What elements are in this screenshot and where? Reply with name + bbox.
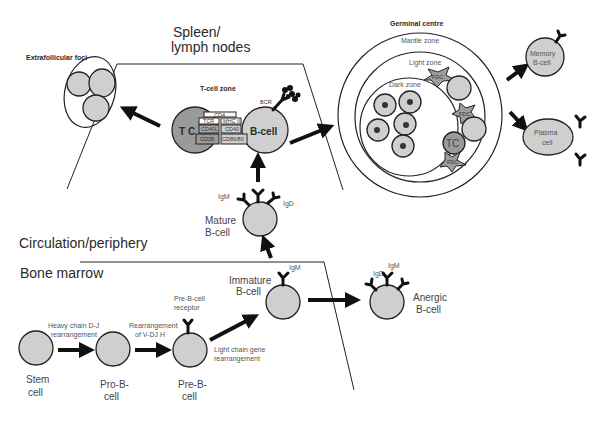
pro-b-cell: Pro-B- cell xyxy=(96,332,130,402)
arrow-to-memory xyxy=(507,68,523,80)
svg-text:CD28: CD28 xyxy=(200,136,214,142)
region-label-spleen: Spleen/ xyxy=(173,24,221,40)
svg-text:FDC: FDC xyxy=(459,111,470,117)
antibody-icon xyxy=(383,273,392,285)
antibody-icon xyxy=(238,194,249,205)
svg-text:cell: cell xyxy=(542,139,553,146)
svg-text:B-cell: B-cell xyxy=(416,304,441,315)
svg-text:Immature: Immature xyxy=(229,275,272,286)
arrow-immature-to-mature xyxy=(265,242,271,258)
svg-text:B-cell: B-cell xyxy=(533,59,551,66)
germinal-centre: Mantle zone Light zone Dark zone FDC FDC… xyxy=(338,33,502,197)
svg-text:CD40L: CD40L xyxy=(201,126,218,132)
region-label-bone-marrow: Bone marrow xyxy=(20,265,104,281)
svg-text:Mature: Mature xyxy=(205,215,237,226)
bone-marrow-boundary xyxy=(80,262,354,390)
antibody-icon xyxy=(184,320,192,333)
b-cell-development-diagram: Spleen/ lymph nodes Circulation/peripher… xyxy=(0,0,605,421)
svg-text:IgM: IgM xyxy=(388,262,400,270)
step-vdj: Rearrangement xyxy=(129,322,178,330)
svg-text:TC: TC xyxy=(446,138,459,149)
antibody-icon xyxy=(576,154,585,165)
step-light-chain-2: rearrangement xyxy=(214,355,260,363)
step-heavy-chain-2: rearrangement xyxy=(51,331,97,339)
svg-text:Light zone: Light zone xyxy=(409,59,441,67)
svg-text:T C: T C xyxy=(179,126,195,137)
step-vdj-2: of V-DJ H xyxy=(135,331,165,338)
antibody-icon xyxy=(279,273,288,285)
svg-text:receptor: receptor xyxy=(174,304,200,312)
antibody-icon xyxy=(556,31,565,42)
region-label-circulation: Circulation/periphery xyxy=(19,235,147,251)
svg-text:cell: cell xyxy=(182,391,197,402)
svg-text:FDC: FDC xyxy=(447,159,458,165)
svg-text:Memory: Memory xyxy=(530,50,556,58)
mature-b-cell: Mature B-cell IgM IgD xyxy=(205,190,294,238)
step-heavy-chain: Heavy chain D-J xyxy=(48,322,99,330)
pre-b-cell: Pre-B- cell Pre-B-cell receptor xyxy=(173,295,207,402)
extrafollicular-title: Extrafollicular foci xyxy=(26,54,87,61)
plasma-cell: Plasma cell xyxy=(523,116,585,165)
arrow-to-extrafollicular xyxy=(127,110,160,126)
arrow-preb-to-immature xyxy=(210,318,252,340)
svg-text:Mantle zone: Mantle zone xyxy=(401,37,439,44)
immature-b-cell: Immature B-cell IgM xyxy=(229,264,301,319)
svg-text:FDC: FDC xyxy=(432,74,443,80)
svg-text:IgD: IgD xyxy=(283,200,294,208)
svg-text:Pro-B-: Pro-B- xyxy=(100,379,129,390)
tcell-zone-title: T-cell zone xyxy=(200,85,236,92)
svg-text:Stem: Stem xyxy=(26,374,49,385)
svg-text:cell: cell xyxy=(28,387,43,398)
memory-b-cell: Memory B-cell xyxy=(526,31,565,76)
svg-text:cell: cell xyxy=(104,391,119,402)
svg-text:Pre-B-cell: Pre-B-cell xyxy=(174,295,205,302)
antibody-icon xyxy=(366,279,376,290)
arrow-to-germinal-centre xyxy=(290,128,327,143)
germinal-centre-title: Germinal centre xyxy=(390,20,443,27)
svg-text:Anergic: Anergic xyxy=(413,292,447,303)
antibody-icon xyxy=(253,190,263,202)
extrafollicular-foci xyxy=(57,51,124,133)
svg-text:Pre-B-: Pre-B- xyxy=(178,379,207,390)
svg-text:CD4: CD4 xyxy=(214,112,225,118)
antibody-icon xyxy=(268,193,279,203)
region-label-lymph-nodes: lymph nodes xyxy=(171,39,250,55)
svg-text:Plasma: Plasma xyxy=(534,129,557,136)
svg-text:B-cell: B-cell xyxy=(250,126,277,137)
anergic-b-cell: Anergic B-cell IgD IgM xyxy=(366,262,447,319)
svg-text:TCR: TCR xyxy=(203,118,214,124)
svg-text:BCR: BCR xyxy=(260,99,272,105)
svg-text:MHC II: MHC II xyxy=(223,118,241,124)
arrow-to-plasma xyxy=(510,112,523,126)
svg-text:B-cell: B-cell xyxy=(236,286,261,297)
svg-text:Dark zone: Dark zone xyxy=(389,81,421,88)
svg-text:IgM: IgM xyxy=(218,193,230,201)
antibody-icon xyxy=(576,116,585,127)
step-light-chain: Light chain gene xyxy=(214,346,265,354)
svg-text:B-cell: B-cell xyxy=(205,227,230,238)
svg-text:CD40: CD40 xyxy=(225,126,239,132)
svg-text:IgM: IgM xyxy=(289,264,301,272)
svg-text:CD86/80: CD86/80 xyxy=(222,136,244,142)
stem-cell: Stem cell xyxy=(19,331,53,398)
tcell-bcell-interaction: T C B-cell CD4 TCR MHC II CD40L CD40 CD2… xyxy=(172,85,301,153)
antibody-icon xyxy=(398,279,408,289)
